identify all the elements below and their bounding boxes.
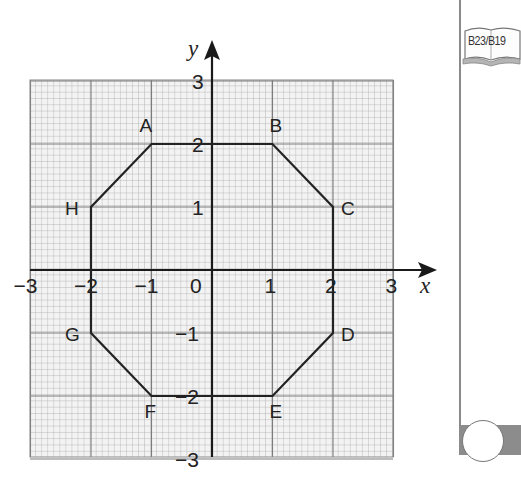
sidebar-divider [459,0,461,452]
y-tick-label: −3 [175,448,199,471]
vertex-label-d: D [341,324,355,345]
x-tick-label: 2 [325,274,337,297]
vertex-label-g: G [65,324,80,345]
y-axis-label: y [186,36,199,61]
coordinate-diagram: −3−2−10123321−1−2−3xy ABCDEFGH [0,0,521,486]
y-tick-label: 1 [192,196,204,219]
vertex-label-h: H [65,198,79,219]
x-tick-label: 0 [190,274,202,297]
x-tick-label: 1 [265,274,277,297]
vertex-label-e: E [270,401,283,422]
x-tick-label: −1 [135,274,159,297]
vertex-label-c: C [341,198,355,219]
x-axis-label: x [419,273,431,298]
y-tick-label: −1 [175,322,199,345]
reference-badge: B23/B19 [468,33,505,48]
x-tick-label: 3 [386,274,398,297]
y-tick-label: 3 [192,70,204,93]
vertex-label-f: F [145,401,157,422]
circle-marker [462,420,504,462]
x-tick-label: −2 [74,274,98,297]
vertex-label-a: A [140,115,153,136]
x-tick-label: −3 [14,274,38,297]
vertex-label-b: B [270,115,283,136]
